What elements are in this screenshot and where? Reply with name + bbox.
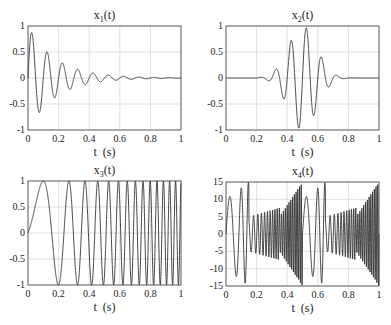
x-tick-label: 0.4 bbox=[277, 290, 297, 300]
plot-area-4 bbox=[0, 0, 391, 325]
y-tick-label: 15 bbox=[201, 177, 223, 187]
y-tick-label: -5 bbox=[201, 246, 223, 256]
x-tick-label: 0.6 bbox=[308, 290, 328, 300]
x-tick-label: 1 bbox=[369, 290, 389, 300]
x-tick-label: 0.8 bbox=[338, 290, 358, 300]
y-tick-label: 0 bbox=[201, 229, 223, 239]
y-tick-label: 5 bbox=[201, 212, 223, 222]
x-tick-label: 0 bbox=[216, 290, 236, 300]
subplot-title: x4(t) bbox=[283, 164, 323, 180]
y-tick-label: -10 bbox=[201, 264, 223, 274]
x-tick-label: 0.2 bbox=[247, 290, 267, 300]
x-axis-label: t (s) bbox=[273, 301, 333, 316]
y-tick-label: 10 bbox=[201, 194, 223, 204]
